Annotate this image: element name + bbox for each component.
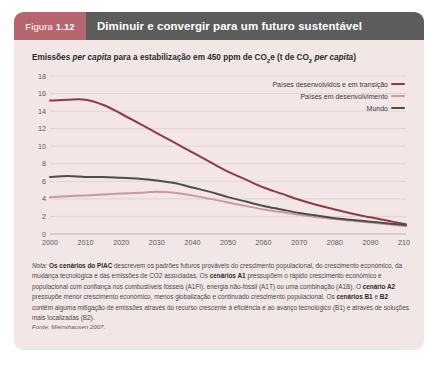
y-tick-4: 4 [42,194,46,203]
series-line-0 [50,99,406,224]
x-tick-2020: 2020 [113,238,129,247]
source-label: Fonte: [32,323,50,330]
note-text-3: pressupõe menor crescimento económico, m… [32,293,336,300]
subtitle-part-3: para a estabilização em 450 ppm de CO [111,53,267,62]
subtitle-part-4: e (t de CO [270,53,309,62]
note-bold-4: cenários B1 [336,293,372,300]
y-tick-8: 8 [42,159,46,168]
subtitle-part-2: per capita [73,53,112,62]
grid-lines [50,76,406,234]
x-tick-2040: 2040 [184,238,200,247]
x-tick-2010: 2010 [78,238,94,247]
figure-number-word: Figura [25,21,53,32]
data-series-group [50,99,406,226]
x-axis-tick-labels: 2000201020202030204020502060207020802090… [42,238,410,247]
y-tick-10: 10 [38,142,46,151]
x-tick-2060: 2060 [256,238,272,247]
subtitle-part-6: per capita [314,53,353,62]
y-tick-18: 18 [38,72,46,81]
series-line-2 [50,176,406,225]
x-tick-2090: 2090 [362,238,378,247]
note-bold-5: B2 [380,293,388,300]
y-tick-14: 14 [38,107,46,116]
note-bold-1: Os cenários do PIAC [49,262,112,269]
y-tick-6: 6 [42,177,46,186]
note-bold-2: cenários A1 [210,272,246,279]
y-tick-12: 12 [38,124,46,133]
note-bold-3: cenário A2 [363,283,395,290]
figure-title: Diminuir e convergir para um futuro sust… [86,12,424,40]
line-chart: 024681012141618 200020102020203020402050… [32,70,410,252]
note-label: Nota: [32,262,47,269]
figure-panel: Figura 1.12 Diminuir e convergir para um… [14,12,424,350]
subtitle-part-1: Emissões [32,53,73,62]
y-tick-16: 16 [38,89,46,98]
note-text-5: contêm alguma mitigação de emissões atra… [32,304,409,321]
legend-label-0: Países desenvolvidos e em transição [272,81,388,89]
figure-header: Figura 1.12 Diminuir e convergir para um… [14,12,424,40]
x-tick-2080: 2080 [327,238,343,247]
figure-number-badge: Figura 1.12 [14,12,86,40]
x-tick-2000: 2000 [42,238,58,247]
chart-plot-area: 024681012141618 200020102020203020402050… [32,70,410,252]
y-tick-2: 2 [42,212,46,221]
note-text-4: e [373,293,380,300]
x-tick-2100: 2100 [398,238,410,247]
figure-source: Fonte: Meinshausen 2007. [32,323,105,330]
source-text: Meinshausen 2007. [50,323,106,330]
figure-number-value: 1.12 [56,21,75,32]
legend-label-2: Mundo [367,105,389,112]
chart-subtitle: Emissões per capita para a estabilização… [32,53,356,64]
chart-legend: Países desenvolvidos e em transiçãoPaíse… [272,81,404,112]
legend-label-1: Países em desenvolvimento [300,93,388,100]
figure-note: Nota: Os cenários do PIAC descrevem os p… [32,261,410,323]
x-tick-2030: 2030 [149,238,165,247]
x-tick-2070: 2070 [291,238,307,247]
y-axis-tick-labels: 024681012141618 [38,72,46,239]
x-tick-2050: 2050 [220,238,236,247]
subtitle-part-7: ) [353,53,356,62]
